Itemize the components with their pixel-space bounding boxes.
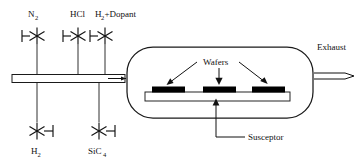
susceptor-label: Susceptor bbox=[248, 132, 284, 142]
gas-inlet-label-sic4-text: SiC bbox=[88, 146, 102, 156]
gas-inlet-label-h2: H 2 bbox=[31, 146, 41, 158]
wafer-3 bbox=[252, 87, 285, 93]
susceptor-plate bbox=[145, 92, 290, 101]
gas-inlet-label-n2-subscript: 2 bbox=[35, 14, 38, 21]
gas-inlet-label-h2-dopant-rest: +Dopant bbox=[105, 9, 137, 19]
exhaust-label: Exhaust bbox=[317, 42, 346, 52]
gas-inlet-label-h2-dopant: H 2 +Dopant bbox=[95, 9, 137, 21]
gas-inlet-label-n2: N 2 bbox=[28, 9, 38, 21]
wafer-2 bbox=[203, 87, 236, 93]
valve-n2[interactable] bbox=[22, 28, 45, 45]
gas-inlet-label-hcl-text: HCl bbox=[70, 9, 86, 19]
valve-tick-h2-dopant bbox=[90, 30, 98, 42]
gas-inlet-label-sic4-subscript: 4 bbox=[103, 151, 107, 158]
valve-hcl[interactable] bbox=[63, 28, 86, 45]
wafer-1 bbox=[152, 87, 185, 93]
gas-inlet-label-sic4: SiC 4 bbox=[88, 146, 107, 158]
gas-inlet-label-h2-subscript: 2 bbox=[38, 151, 41, 158]
gas-inlet-label-n2-text: N bbox=[28, 9, 35, 19]
wafers-arrow-center bbox=[215, 68, 222, 85]
wafers-label: Wafers bbox=[203, 57, 229, 67]
star-valve-icon bbox=[92, 123, 107, 140]
valve-tick-n2 bbox=[22, 30, 30, 42]
valve-tick-sic4 bbox=[106, 125, 115, 137]
diagram-canvas: N 2 HCl H 2 +Dopant bbox=[0, 0, 358, 168]
wafer-group bbox=[152, 87, 285, 93]
star-valve-icon bbox=[30, 28, 45, 45]
gas-inlet-label-hcl: HCl bbox=[70, 9, 86, 19]
valve-tick-h2 bbox=[44, 125, 53, 137]
star-valve-icon bbox=[98, 28, 113, 45]
exhaust-arrow bbox=[314, 73, 354, 79]
valve-h2[interactable] bbox=[30, 123, 54, 140]
valve-tick-hcl bbox=[63, 30, 71, 42]
inlet-manifold-pipe bbox=[12, 75, 126, 83]
cvd-reactor-diagram: N 2 HCl H 2 +Dopant bbox=[0, 0, 358, 168]
double-line-arrow-icon bbox=[314, 73, 354, 79]
valve-h2-dopant[interactable] bbox=[90, 28, 113, 45]
valve-sic4[interactable] bbox=[92, 123, 116, 140]
star-valve-icon bbox=[71, 28, 86, 45]
wafers-arrow-left bbox=[167, 62, 198, 85]
star-valve-icon bbox=[30, 123, 45, 140]
wafers-arrow-right bbox=[239, 62, 268, 84]
